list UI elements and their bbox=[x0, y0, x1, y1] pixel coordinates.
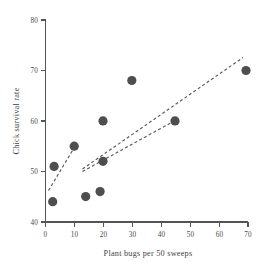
scatter-chart-figure: 40 50 60 70 80 0 10 20 30 40 50 60 70 bbox=[0, 0, 265, 269]
trend-line-upper-long bbox=[83, 58, 244, 170]
x-axis-ticks bbox=[46, 222, 249, 227]
data-point bbox=[70, 142, 79, 151]
data-point bbox=[98, 116, 107, 125]
data-point bbox=[98, 157, 107, 166]
x-tick-label-10: 10 bbox=[71, 231, 79, 239]
y-tick-label-80: 80 bbox=[30, 17, 38, 25]
data-point bbox=[50, 162, 59, 171]
axis-lines bbox=[45, 20, 248, 223]
data-points-group bbox=[48, 66, 250, 206]
y-tick-label-50: 50 bbox=[30, 168, 38, 176]
data-point bbox=[170, 116, 179, 125]
y-tick-label-70: 70 bbox=[30, 67, 38, 75]
plot-area: 40 50 60 70 80 0 10 20 30 40 50 60 70 bbox=[0, 0, 265, 269]
y-axis-title: Chick survival rate bbox=[12, 87, 21, 154]
x-tick-label-20: 20 bbox=[100, 231, 108, 239]
trend-line-lower-long bbox=[83, 120, 178, 172]
x-tick-label-40: 40 bbox=[158, 231, 166, 239]
x-tick-label-70: 70 bbox=[244, 231, 252, 239]
x-axis-title: Plant bugs per 50 sweeps bbox=[104, 249, 193, 258]
trend-lines-group bbox=[49, 58, 244, 191]
x-axis-tick-labels: 0 10 20 30 40 50 60 70 bbox=[44, 231, 252, 239]
y-axis-tick-labels: 40 50 60 70 80 bbox=[30, 17, 38, 227]
data-point bbox=[96, 187, 105, 196]
data-point bbox=[127, 76, 136, 85]
x-tick-label-30: 30 bbox=[129, 231, 137, 239]
data-point bbox=[241, 66, 250, 75]
data-point bbox=[81, 192, 90, 201]
data-point bbox=[48, 197, 57, 206]
y-tick-label-60: 60 bbox=[30, 118, 38, 126]
y-tick-label-40: 40 bbox=[30, 219, 38, 227]
x-tick-label-0: 0 bbox=[44, 231, 48, 239]
x-tick-label-60: 60 bbox=[216, 231, 224, 239]
x-tick-label-50: 50 bbox=[187, 231, 195, 239]
